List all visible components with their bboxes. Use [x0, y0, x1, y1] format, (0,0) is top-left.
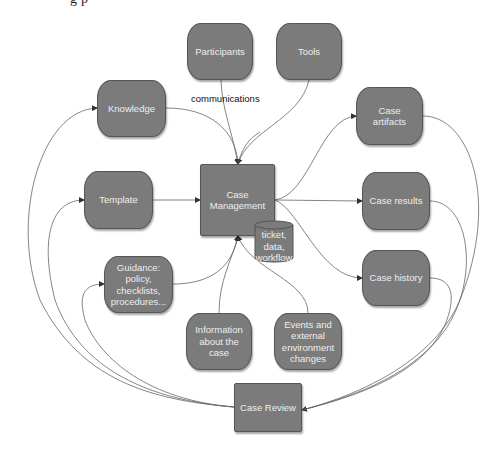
node-label: Tools	[298, 46, 320, 58]
node-case-results[interactable]: Case results	[362, 172, 430, 230]
edge-cm-results	[275, 200, 362, 201]
node-label: Case Management	[209, 189, 266, 212]
node-label: Case Review	[240, 402, 296, 414]
node-events[interactable]: Events and external environment changes	[274, 313, 342, 370]
edge-cm-artifacts-up	[238, 132, 260, 164]
node-label: Case artifacts	[367, 105, 412, 128]
node-datastore[interactable]: ticket, data, workflow	[254, 220, 294, 263]
node-label: Knowledge	[108, 103, 155, 115]
node-information[interactable]: Information about the case	[186, 313, 252, 370]
node-label: Case history	[370, 272, 423, 284]
node-case-artifacts[interactable]: Case artifacts	[356, 87, 423, 145]
node-label: Case results	[370, 195, 423, 207]
node-guidance[interactable]: Guidance: policy, checklists, procedures…	[104, 256, 173, 313]
edge-guidance-cm	[173, 236, 238, 284]
node-knowledge[interactable]: Knowledge	[97, 80, 166, 137]
node-template[interactable]: Template	[84, 171, 153, 229]
node-label: ticket, data, workflow	[254, 229, 294, 264]
edge-knowledge-cm	[166, 108, 238, 164]
node-label: Guidance: policy, checklists, procedures…	[108, 262, 169, 308]
communications-label: communications	[191, 93, 260, 104]
edge-cm-artifacts	[275, 116, 356, 200]
node-case-review[interactable]: Case Review	[234, 383, 302, 432]
node-label: Template	[99, 194, 138, 206]
node-label: Events and external environment changes	[278, 319, 338, 365]
node-label: Information about the case	[192, 324, 246, 359]
node-participants[interactable]: Participants	[187, 23, 253, 80]
node-label: Participants	[195, 46, 245, 58]
node-case-history[interactable]: Case history	[362, 250, 430, 306]
node-tools[interactable]: Tools	[276, 23, 342, 80]
